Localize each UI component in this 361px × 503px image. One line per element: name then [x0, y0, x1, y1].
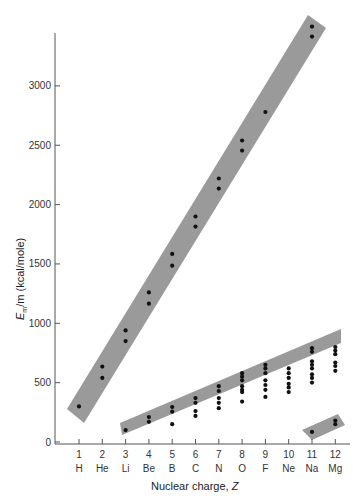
data-point: [287, 366, 291, 370]
data-point: [217, 176, 221, 180]
data-point: [217, 389, 221, 393]
y-tick-label: 2500: [29, 140, 52, 151]
y-tick-label: 1500: [29, 258, 52, 269]
data-point: [310, 376, 314, 380]
x-axis-title-text: Nuclear charge,: [151, 480, 232, 492]
x-element-label: F: [262, 463, 268, 474]
x-tick-label: 11: [307, 449, 318, 460]
data-point: [333, 419, 337, 423]
data-point: [147, 290, 151, 294]
data-point: [124, 428, 128, 432]
data-point: [287, 376, 291, 380]
data-point: [310, 372, 314, 376]
data-point: [287, 371, 291, 375]
bands: [67, 15, 345, 440]
x-element-label: Be: [143, 463, 156, 474]
data-point: [124, 328, 128, 332]
x-axis-title: Nuclear charge, Z: [151, 480, 240, 492]
x-element-label: C: [192, 463, 199, 474]
chart: 050010001500200025003000 1H2He3Li4Be5B6C…: [0, 0, 361, 503]
y-tick-label: 2000: [29, 199, 52, 210]
data-point: [170, 410, 174, 414]
data-point: [287, 385, 291, 389]
data-point: [310, 35, 314, 39]
data-point: [77, 404, 81, 408]
data-point: [124, 339, 128, 343]
data-point: [217, 396, 221, 400]
middle-band: [120, 329, 341, 435]
data-point: [310, 350, 314, 354]
data-point: [147, 415, 151, 419]
x-element-label: N: [215, 463, 222, 474]
data-point: [193, 225, 197, 229]
data-point: [240, 384, 244, 388]
data-point: [170, 422, 174, 426]
x-tick-label: 9: [263, 449, 269, 460]
data-point: [333, 345, 337, 349]
x-element-label: O: [238, 463, 246, 474]
data-point: [100, 365, 104, 369]
data-point: [240, 149, 244, 153]
x-tick-label: 6: [193, 449, 199, 460]
data-point: [240, 390, 244, 394]
y-tick-label: 3000: [29, 80, 52, 91]
y-axis-title: Em/m (kcal/mole): [14, 238, 28, 320]
x-element-label: H: [75, 463, 82, 474]
data-point: [287, 382, 291, 386]
data-point: [217, 401, 221, 405]
x-tick-label: 10: [283, 449, 295, 460]
data-point: [147, 302, 151, 306]
data-point: [193, 214, 197, 218]
data-point: [240, 378, 244, 382]
data-points: [77, 25, 338, 435]
data-point: [310, 25, 314, 29]
data-point: [240, 375, 244, 379]
data-point: [263, 395, 267, 399]
data-point: [170, 405, 174, 409]
x-element-label: Na: [306, 463, 319, 474]
x-tick-label: 12: [330, 449, 342, 460]
data-point: [193, 414, 197, 418]
x-element-label: B: [169, 463, 176, 474]
y-axis-title-rest: /m (kcal/mole): [14, 238, 26, 307]
data-point: [287, 390, 291, 394]
data-point: [100, 376, 104, 380]
data-point: [170, 264, 174, 268]
data-point: [193, 401, 197, 405]
x-tick-label: 2: [100, 449, 106, 460]
x-tick-label: 5: [169, 449, 175, 460]
data-point: [333, 349, 337, 353]
data-point: [333, 364, 337, 368]
data-point: [193, 396, 197, 400]
x-element-label: Mg: [328, 463, 342, 474]
data-point: [193, 409, 197, 413]
data-point: [310, 363, 314, 367]
data-point: [170, 252, 174, 256]
data-point: [333, 352, 337, 356]
data-point: [310, 346, 314, 350]
data-point: [263, 383, 267, 387]
data-point: [263, 110, 267, 114]
lower-band: [302, 414, 345, 440]
y-tick-label: 0: [45, 437, 51, 448]
x-tick-label: 1: [76, 449, 82, 460]
data-point: [333, 422, 337, 426]
data-point: [310, 366, 314, 370]
data-point: [263, 378, 267, 382]
data-point: [333, 369, 337, 373]
data-point: [263, 371, 267, 375]
data-point: [217, 406, 221, 410]
y-tick-label: 500: [34, 377, 51, 388]
x-element-label: He: [96, 463, 109, 474]
x-tick-label: 7: [216, 449, 222, 460]
x-tick-label: 4: [146, 449, 152, 460]
x-element-label: Ne: [282, 463, 295, 474]
data-point: [263, 388, 267, 392]
x-tick-label: 3: [123, 449, 129, 460]
data-point: [263, 366, 267, 370]
data-point: [217, 384, 221, 388]
data-point: [147, 420, 151, 424]
data-point: [310, 381, 314, 385]
x-tick-label: 8: [239, 449, 245, 460]
x-element-label: Li: [122, 463, 130, 474]
